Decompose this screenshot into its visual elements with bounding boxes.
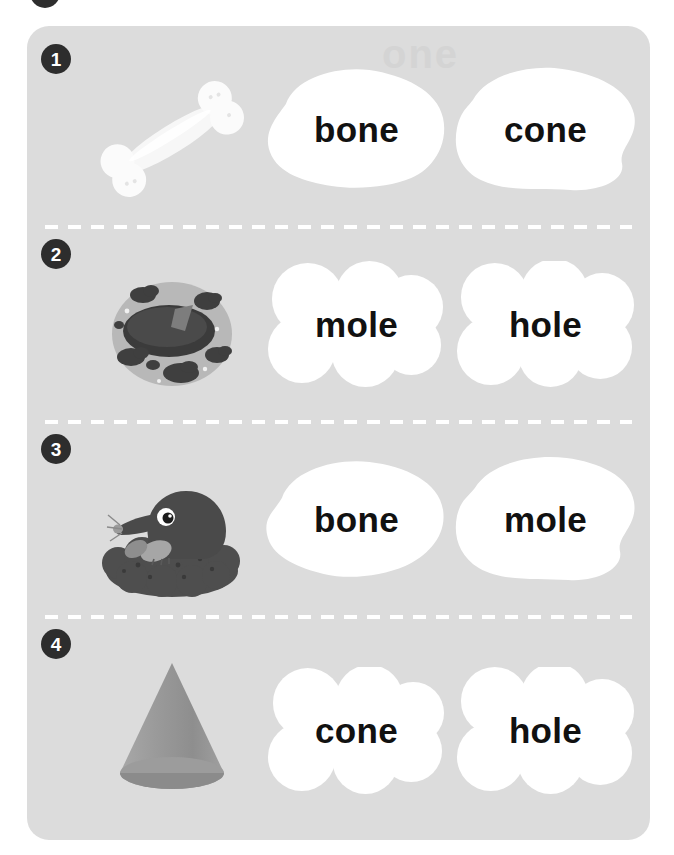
question-rows: 1 [27,26,650,840]
mole-illustration [77,454,267,604]
question-number-badge: 3 [41,434,71,464]
worksheet-card: one 1 [27,26,650,840]
word-option-mole[interactable]: mole [451,456,640,584]
word-label: mole [504,500,587,540]
question-row-2: 2 [27,229,650,424]
word-label: mole [315,305,398,345]
question-number-badge: 2 [41,239,71,269]
word-choices-row-2: mole hole [262,245,640,405]
word-choices-row-1: bone cone [262,50,640,210]
word-choices-row-3: bone mole [262,440,640,600]
cut-off-badge-fragment [30,0,60,8]
word-option-bone[interactable]: bone [262,66,451,194]
word-option-cone[interactable]: cone [451,66,640,194]
question-number-badge: 1 [41,44,71,74]
word-label: cone [315,711,398,751]
word-label: cone [504,110,587,150]
hole-illustration [77,259,267,409]
word-label: hole [509,711,582,751]
question-row-3: 3 [27,424,650,619]
word-label: bone [314,110,399,150]
cone-illustration [77,657,267,807]
question-number-badge: 4 [41,629,71,659]
word-label: bone [314,500,399,540]
question-row-4: 4 [27,619,650,840]
bone-illustration [77,64,267,214]
word-option-hole[interactable]: hole [451,261,640,389]
question-row-1: 1 [27,34,650,229]
word-label: hole [509,305,582,345]
word-option-mole[interactable]: mole [262,261,451,389]
word-option-cone[interactable]: cone [262,667,451,795]
word-choices-row-4: cone hole [262,651,640,811]
word-option-bone[interactable]: bone [262,456,451,584]
word-option-hole[interactable]: hole [451,667,640,795]
